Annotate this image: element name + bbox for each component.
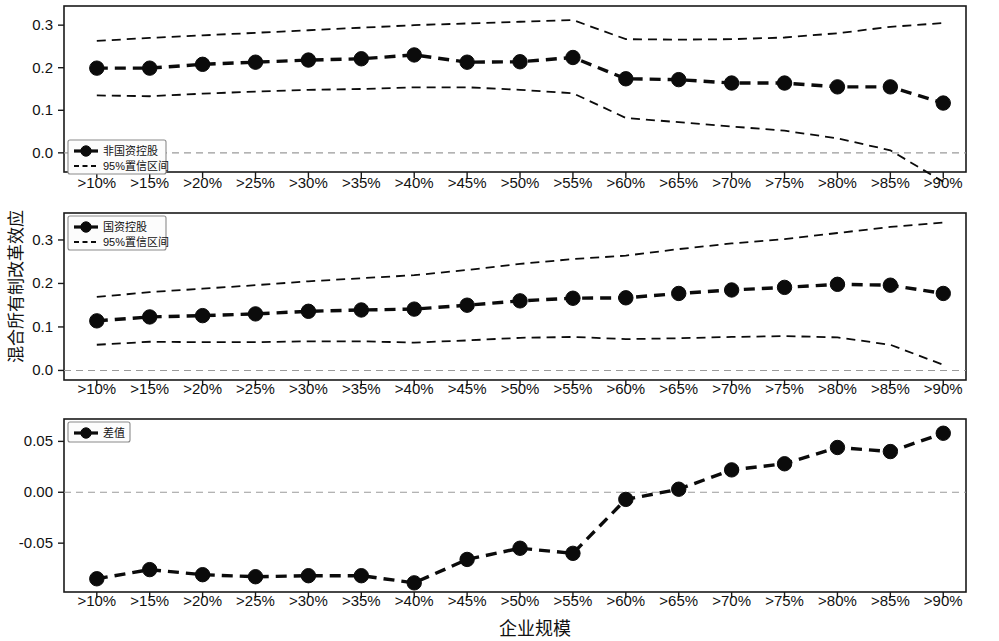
legend-marker-circle: [81, 222, 91, 232]
x-tick-label: >35%: [342, 380, 381, 397]
data-point-marker: [407, 576, 421, 590]
x-tick-label: >80%: [818, 380, 857, 397]
x-tick-label: >20%: [183, 380, 222, 397]
x-tick-label: >60%: [606, 174, 645, 191]
x-tick-label: >20%: [183, 174, 222, 191]
x-tick-label: >15%: [130, 592, 169, 609]
x-tick-label: >15%: [130, 380, 169, 397]
x-tick-label: >55%: [554, 592, 593, 609]
y-tick-label: 0.3: [32, 231, 53, 248]
x-tick-label: >70%: [712, 174, 751, 191]
figure-root: 混合所有制改革效应 0.00.10.20.3>10%>15%>20%>25%>3…: [0, 0, 999, 641]
legend-label: 非国资控股: [103, 144, 158, 157]
data-point-marker: [777, 457, 791, 471]
data-point-marker: [143, 61, 157, 75]
data-point-marker: [619, 291, 633, 305]
legend-label: 95%置信区间: [103, 236, 169, 248]
chart-svg-panel-2: 0.00.10.20.3>10%>15%>20%>25%>30%>35%>40%…: [0, 196, 999, 398]
data-point-marker: [566, 50, 580, 64]
x-axis-label: 企业规模: [0, 614, 999, 640]
x-tick-label: >55%: [554, 380, 593, 397]
data-point-marker: [830, 440, 844, 454]
x-tick-label: >90%: [924, 380, 963, 397]
data-point-marker: [407, 48, 421, 62]
y-tick-label: 0.0: [32, 361, 53, 378]
x-axis-label-text: 企业规模: [499, 619, 571, 639]
y-tick-label: 0.1: [32, 318, 53, 335]
x-tick-label: >45%: [448, 380, 487, 397]
legend-marker-circle: [81, 146, 91, 156]
y-tick-label: 0.05: [24, 432, 53, 449]
x-tick-label: >50%: [501, 592, 540, 609]
data-point-marker: [724, 283, 738, 297]
x-tick-label: >75%: [765, 592, 804, 609]
x-tick-label: >80%: [818, 174, 857, 191]
data-point-marker: [936, 286, 950, 300]
data-point-marker: [724, 76, 738, 90]
data-point-marker: [90, 314, 104, 328]
x-tick-label: >35%: [342, 592, 381, 609]
x-tick-label: >25%: [236, 592, 275, 609]
x-tick-label: >90%: [924, 592, 963, 609]
chart-panel-1: 0.00.10.20.3>10%>15%>20%>25%>30%>35%>40%…: [0, 0, 999, 196]
x-tick-label: >60%: [606, 380, 645, 397]
data-point-marker: [248, 570, 262, 584]
legend-marker-circle: [81, 428, 91, 438]
x-tick-label: >65%: [659, 174, 698, 191]
data-point-marker: [248, 307, 262, 321]
x-tick-label: >65%: [659, 380, 698, 397]
data-point-marker: [883, 80, 897, 94]
x-tick-label: >20%: [183, 592, 222, 609]
x-tick-label: >75%: [765, 174, 804, 191]
data-point-marker: [830, 277, 844, 291]
x-tick-label: >60%: [606, 592, 645, 609]
data-point-marker: [672, 72, 686, 86]
data-point-marker: [883, 278, 897, 292]
data-point-marker: [407, 302, 421, 316]
data-point-marker: [460, 552, 474, 566]
data-point-marker: [830, 80, 844, 94]
x-tick-label: >65%: [659, 592, 698, 609]
y-tick-label: 0.0: [32, 144, 53, 161]
data-point-marker: [513, 541, 527, 555]
x-tick-label: >25%: [236, 380, 275, 397]
data-point-marker: [936, 426, 950, 440]
chart-svg-panel-3: 0.050.00-0.05>10%>15%>20%>25%>30%>35%>40…: [0, 398, 999, 614]
x-tick-label: >85%: [871, 592, 910, 609]
x-tick-label: >45%: [448, 174, 487, 191]
data-point-marker: [354, 569, 368, 583]
x-tick-label: >70%: [712, 592, 751, 609]
x-tick-label: >90%: [924, 174, 963, 191]
data-point-marker: [195, 568, 209, 582]
x-tick-label: >10%: [77, 174, 116, 191]
data-point-marker: [354, 303, 368, 317]
chart-panel-2: 0.00.10.20.3>10%>15%>20%>25%>30%>35%>40%…: [0, 196, 999, 398]
x-tick-label: >40%: [395, 174, 434, 191]
x-tick-label: >50%: [501, 380, 540, 397]
y-tick-label: 0.3: [32, 16, 53, 33]
chart-svg-panel-1: 0.00.10.20.3>10%>15%>20%>25%>30%>35%>40%…: [0, 0, 999, 196]
x-tick-label: >70%: [712, 380, 751, 397]
x-tick-label: >15%: [130, 174, 169, 191]
y-tick-label: 0.2: [32, 59, 53, 76]
data-point-marker: [195, 57, 209, 71]
data-point-marker: [883, 444, 897, 458]
legend-label: 差值: [103, 426, 125, 439]
x-tick-label: >30%: [289, 380, 328, 397]
y-tick-label: -0.05: [19, 534, 53, 551]
data-point-marker: [724, 463, 738, 477]
x-tick-label: >25%: [236, 174, 275, 191]
data-point-marker: [566, 291, 580, 305]
y-tick-label: 0.00: [24, 483, 53, 500]
x-tick-label: >10%: [77, 592, 116, 609]
x-tick-label: >80%: [818, 592, 857, 609]
legend-label: 95%置信区间: [103, 160, 169, 172]
data-point-marker: [619, 492, 633, 506]
x-tick-label: >10%: [77, 380, 116, 397]
data-point-marker: [90, 572, 104, 586]
data-point-marker: [90, 61, 104, 75]
data-point-marker: [619, 72, 633, 86]
data-point-marker: [354, 52, 368, 66]
data-point-marker: [301, 53, 315, 67]
data-point-marker: [777, 280, 791, 294]
